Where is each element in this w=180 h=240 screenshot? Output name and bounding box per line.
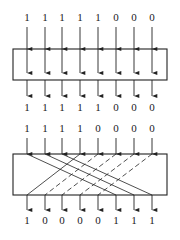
stage2-input-labels: 11110000 <box>24 122 155 134</box>
bit-label: 1 <box>95 11 101 23</box>
bit-label: 0 <box>149 11 155 23</box>
bit-label: 0 <box>149 101 155 113</box>
dashed-connection <box>80 154 134 195</box>
stage1-input-labels: 11111000 <box>24 11 155 23</box>
shifter-diagram: 11111000 11111000 11110000 10000111 <box>0 0 180 240</box>
bit-label: 0 <box>95 214 101 226</box>
bit-label: 0 <box>59 214 65 226</box>
bit-label: 1 <box>42 101 48 113</box>
bit-label: 0 <box>113 122 119 134</box>
stage1-output-labels: 11111000 <box>24 101 155 113</box>
bit-label: 1 <box>77 11 83 23</box>
stage2-box-group <box>13 138 167 210</box>
bit-label: 1 <box>95 101 101 113</box>
bit-label: 0 <box>77 214 83 226</box>
bit-label: 0 <box>131 101 137 113</box>
bit-label: 1 <box>113 214 119 226</box>
stage1-box-group <box>13 27 167 96</box>
bit-label: 0 <box>113 101 119 113</box>
bit-label: 1 <box>77 122 83 134</box>
bit-label: 0 <box>131 122 137 134</box>
bit-label: 0 <box>95 122 101 134</box>
stage2-output-labels: 10000111 <box>24 214 155 226</box>
bit-label: 1 <box>24 11 30 23</box>
bit-label: 1 <box>24 101 30 113</box>
bit-label: 0 <box>113 11 119 23</box>
bit-label: 1 <box>149 214 155 226</box>
bit-label: 1 <box>42 11 48 23</box>
bit-label: 1 <box>131 214 137 226</box>
bit-label: 1 <box>24 214 30 226</box>
bit-label: 1 <box>42 122 48 134</box>
bit-label: 1 <box>59 122 65 134</box>
bit-label: 0 <box>149 122 155 134</box>
bit-label: 0 <box>42 214 48 226</box>
bit-label: 1 <box>24 122 30 134</box>
bit-label: 1 <box>59 11 65 23</box>
bit-label: 1 <box>77 101 83 113</box>
stage1-box <box>13 49 167 80</box>
bit-label: 1 <box>59 101 65 113</box>
bit-label: 0 <box>131 11 137 23</box>
